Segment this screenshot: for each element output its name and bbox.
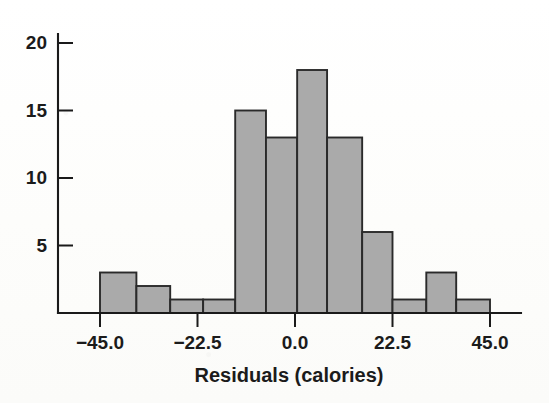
histogram-bar [456,300,490,314]
x-tick-label: 45.0 [472,332,509,353]
bars-group [100,70,490,313]
y-tick-label: 10 [26,167,47,188]
histogram-bar [426,273,456,314]
x-tick-label: −45.0 [76,332,124,353]
y-tick-label: 5 [36,235,47,256]
histogram-bar [393,300,427,314]
y-tick-label: 15 [26,100,48,121]
x-tick-label: 22.5 [374,332,411,353]
histogram-bar [297,70,327,313]
histogram-bar [136,286,170,313]
y-tick-label: 20 [26,32,47,53]
histogram-bar [362,232,392,313]
histogram-plot: 5101520 −45.0−22.50.022.545.0 Residuals … [0,0,549,403]
y-axis-ticks: 5101520 [26,32,73,256]
x-axis-title: Residuals (calories) [195,364,384,386]
x-axis-ticks: −45.0−22.50.022.545.0 [76,313,509,353]
histogram-bar [170,300,203,314]
histogram-figure: 5101520 −45.0−22.50.022.545.0 Residuals … [0,0,549,403]
histogram-bar [100,273,136,314]
x-tick-label: −22.5 [173,332,222,353]
x-tick-label: 0.0 [282,332,308,353]
histogram-bar [235,111,266,314]
histogram-bar [203,300,235,314]
histogram-bar [266,138,297,314]
histogram-bar [327,138,362,314]
